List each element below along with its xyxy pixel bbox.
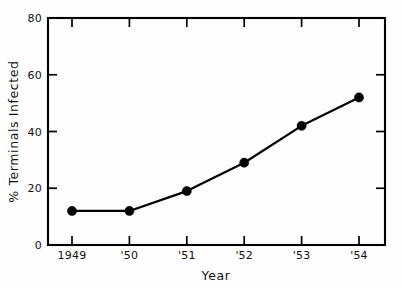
- data-points: [67, 93, 363, 216]
- data-point-1950: [125, 206, 134, 215]
- x-tick-label-1949: 1949: [58, 249, 87, 262]
- y-tick-label-0: 0: [35, 239, 42, 252]
- y-tick-label-20: 20: [28, 182, 42, 195]
- line-chart: 80 60 40 20 0 1949 '50 '51 '52 '53 '54 Y…: [0, 0, 402, 288]
- x-tick-labels: 1949 '50 '51 '52 '53 '54: [58, 249, 368, 262]
- data-point-1952: [240, 158, 249, 167]
- data-point-1953: [297, 121, 306, 130]
- y-tick-label-60: 60: [28, 69, 42, 82]
- x-tick-label-1953: '53: [293, 249, 311, 262]
- x-tick-label-1952: '52: [235, 249, 253, 262]
- x-axis-ticks-top: [72, 18, 359, 27]
- x-tick-label-1950: '50: [121, 249, 139, 262]
- data-point-1951: [182, 186, 191, 195]
- x-axis-ticks-bottom: [72, 236, 359, 245]
- chart-figure: 80 60 40 20 0 1949 '50 '51 '52 '53 '54 Y…: [0, 0, 402, 288]
- x-axis-title: Year: [201, 268, 231, 283]
- y-axis-ticks-right: [376, 75, 385, 189]
- y-axis-title: % Terminals Infected: [6, 60, 21, 202]
- x-tick-label-1954: '54: [350, 249, 368, 262]
- data-point-1949: [67, 206, 76, 215]
- y-tick-label-40: 40: [28, 126, 42, 139]
- x-tick-label-1951: '51: [178, 249, 196, 262]
- y-axis-ticks-left: [48, 18, 57, 245]
- data-point-1954: [354, 93, 363, 102]
- y-tick-label-80: 80: [28, 12, 42, 25]
- data-series-line: [72, 97, 359, 211]
- y-tick-labels: 80 60 40 20 0: [28, 12, 42, 252]
